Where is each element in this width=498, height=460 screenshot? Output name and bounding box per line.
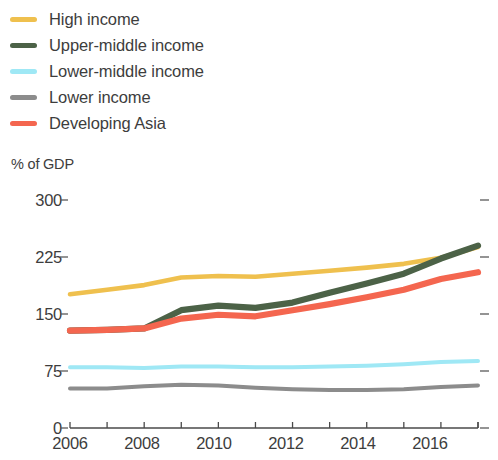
series-lines [70, 246, 478, 390]
chart-plot-area [0, 0, 498, 460]
series-line-developing-asia [70, 272, 478, 331]
series-line-lower-income [70, 385, 478, 390]
series-line-lower-middle-income [70, 361, 478, 368]
chart-figure: High income Upper-middle income Lower-mi… [0, 0, 498, 460]
